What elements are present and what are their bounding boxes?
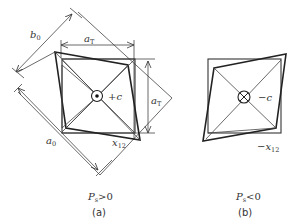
figure-a: b0 a0 aT aT <box>12 8 172 218</box>
center-dot-in-circle-icon <box>92 91 103 102</box>
caption-b: (b) <box>238 207 252 218</box>
b0-label: b0 <box>30 29 41 42</box>
aT-right-label: aT <box>151 95 162 108</box>
shear-label-minus-x12: −x12 <box>257 141 279 154</box>
center-label-plus-c: +c <box>108 91 122 102</box>
caption-a: (a) <box>92 207 106 218</box>
condition-a: Ps>0 <box>87 191 113 204</box>
dimension-aT-top: aT <box>61 33 134 140</box>
dimension-b0: b0 <box>12 8 82 78</box>
center-label-minus-c: −c <box>258 92 272 103</box>
aT-top-label: aT <box>84 33 95 46</box>
figure-b: −c −x12 Ps<0 (b) <box>203 54 286 218</box>
center-cross-in-circle-icon <box>238 91 250 103</box>
a0-label: a0 <box>46 135 56 148</box>
shear-deformation-diagram: b0 a0 aT aT <box>0 0 293 223</box>
condition-b: Ps<0 <box>235 191 261 204</box>
shear-label-x12: x12 <box>112 137 126 150</box>
